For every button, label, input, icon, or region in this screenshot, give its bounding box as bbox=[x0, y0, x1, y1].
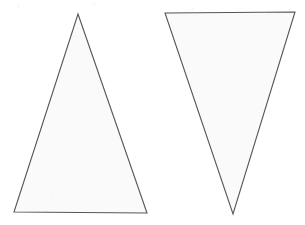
triangles-figure bbox=[0, 0, 305, 225]
figure-canvas bbox=[0, 0, 305, 225]
